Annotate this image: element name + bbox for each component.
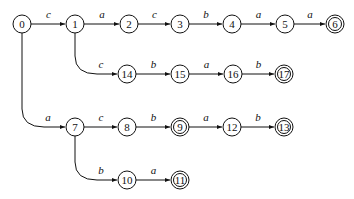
transition-8-9: b xyxy=(136,111,170,127)
state-label: 10 xyxy=(122,174,134,186)
state-3: 3 xyxy=(171,15,189,33)
transition-label: c xyxy=(99,111,104,123)
state-9-final: 9 xyxy=(171,118,189,136)
state-label: 17 xyxy=(279,68,291,80)
transition-label: a xyxy=(99,8,105,20)
state-14: 14 xyxy=(118,65,136,83)
state-10: 10 xyxy=(118,171,136,189)
transition-15-16: a xyxy=(189,58,223,74)
state-17-final: 17 xyxy=(275,65,293,83)
state-label: 11 xyxy=(175,174,186,186)
automaton-diagram: cacbaacbabacbabba 0123456141516177891213… xyxy=(0,0,354,199)
transition-5-6: a xyxy=(294,8,325,24)
state-7: 7 xyxy=(66,118,84,136)
transition-label: b xyxy=(98,164,104,176)
state-13-final: 13 xyxy=(275,118,293,136)
transitions: cacbaacbabacbabba xyxy=(22,8,325,180)
state-label: 7 xyxy=(72,121,78,133)
transition-label: b xyxy=(151,58,157,70)
transition-label: a xyxy=(204,58,210,70)
transition-3-4: b xyxy=(189,8,222,24)
transition-label: a xyxy=(203,111,209,123)
state-label: 12 xyxy=(227,121,238,133)
state-5: 5 xyxy=(276,15,294,33)
transition-9-12: a xyxy=(189,111,222,127)
transition-7-8: c xyxy=(84,111,117,127)
transition-label: a xyxy=(307,8,313,20)
states: 01234561415161778912131011 xyxy=(13,15,344,189)
state-label: 9 xyxy=(177,121,183,133)
state-label: 4 xyxy=(229,18,235,30)
transition-label: c xyxy=(46,8,51,20)
transition-12-13: b xyxy=(241,111,274,127)
state-label: 6 xyxy=(332,18,338,30)
transition-1-2: a xyxy=(84,8,119,24)
transition-arrow xyxy=(22,33,65,127)
transition-7-10: b xyxy=(75,136,117,180)
state-1: 1 xyxy=(66,15,84,33)
transition-label: b xyxy=(255,111,261,123)
state-label: 1 xyxy=(72,18,78,30)
transition-16-17: b xyxy=(242,58,274,74)
state-15: 15 xyxy=(171,65,189,83)
state-12: 12 xyxy=(223,118,241,136)
state-0: 0 xyxy=(13,15,31,33)
transition-label: a xyxy=(45,111,51,123)
transition-label: b xyxy=(256,58,262,70)
state-label: 14 xyxy=(122,68,134,80)
state-2: 2 xyxy=(120,15,138,33)
transition-label: b xyxy=(203,8,209,20)
state-label: 5 xyxy=(282,18,288,30)
transition-1-14: c xyxy=(75,33,117,74)
state-11-final: 11 xyxy=(171,171,189,189)
state-label: 8 xyxy=(124,121,130,133)
transition-0-7: a xyxy=(22,33,65,127)
transition-label: b xyxy=(151,111,157,123)
transition-arrow xyxy=(75,33,117,74)
transition-14-15: b xyxy=(136,58,170,74)
transition-0-1: c xyxy=(31,8,65,24)
state-8: 8 xyxy=(118,118,136,136)
state-16: 16 xyxy=(224,65,242,83)
state-4: 4 xyxy=(223,15,241,33)
transition-arrow xyxy=(75,136,117,180)
state-6-final: 6 xyxy=(326,15,344,33)
state-label: 3 xyxy=(177,18,183,30)
transition-label: a xyxy=(151,164,157,176)
state-label: 16 xyxy=(228,68,240,80)
transition-4-5: a xyxy=(241,8,275,24)
state-label: 0 xyxy=(19,18,25,30)
state-label: 2 xyxy=(126,18,132,30)
transition-label: c xyxy=(99,58,104,70)
transition-label: a xyxy=(256,8,262,20)
transition-10-11: a xyxy=(136,164,170,180)
transition-label: c xyxy=(152,8,157,20)
state-label: 15 xyxy=(175,68,187,80)
state-label: 13 xyxy=(279,121,291,133)
transition-2-3: c xyxy=(138,8,170,24)
